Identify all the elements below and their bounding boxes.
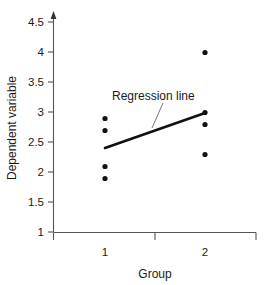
y-axis-tick-labels: 1 1.5 2 2.5 3 3.5 4 4.5: [28, 16, 45, 238]
y-tick-label-3: 3: [38, 106, 44, 118]
y-axis-ticks: [48, 22, 54, 232]
x-tick-label-group-2: 2: [202, 246, 208, 258]
x-axis-ticks: [54, 233, 257, 241]
chart-container: 1 1.5 2 2.5 3 3.5 4 4.5 1 2 Group Depend…: [0, 0, 268, 285]
data-point: [102, 128, 107, 133]
regression-line-label: Regression line: [112, 89, 195, 103]
data-point: [202, 122, 207, 127]
x-axis-tick-labels: 1 2: [102, 246, 208, 258]
data-point: [202, 152, 207, 157]
y-tick-label-4: 4: [38, 46, 45, 58]
x-axis-title: Group: [138, 267, 172, 281]
y-tick-label-1-5: 1.5: [28, 196, 44, 208]
x-tick-label-group-1: 1: [102, 246, 108, 258]
y-tick-label-2: 2: [38, 166, 44, 178]
y-tick-label-4-5: 4.5: [28, 16, 44, 28]
data-point: [102, 116, 107, 121]
y-axis-title: Dependent variable: [5, 76, 19, 180]
y-axis-arrow-icon: [51, 11, 57, 19]
y-tick-label-3-5: 3.5: [28, 76, 44, 88]
y-tick-label-2-5: 2.5: [28, 136, 44, 148]
data-point: [202, 50, 207, 55]
regression-line: [105, 113, 205, 148]
data-point: [102, 176, 107, 181]
data-point: [102, 164, 107, 169]
scatter-plot: 1 1.5 2 2.5 3 3.5 4 4.5 1 2 Group Depend…: [0, 0, 268, 285]
data-points-group-2: [202, 50, 207, 157]
y-tick-label-1: 1: [38, 226, 44, 238]
regression-line-leader: [152, 103, 163, 128]
data-point: [202, 110, 207, 115]
